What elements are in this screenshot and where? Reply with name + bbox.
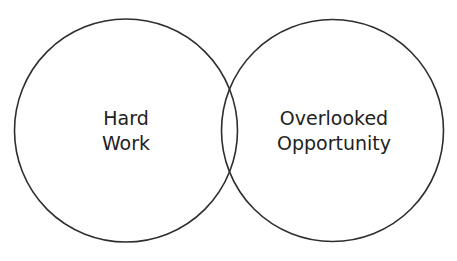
label-overlooked-opportunity-line-2: Opportunity	[264, 131, 404, 156]
label-overlooked-opportunity: Overlooked Opportunity	[264, 106, 404, 156]
label-hard-work: Hard Work	[76, 106, 176, 156]
label-hard-work-line-1: Hard	[76, 106, 176, 131]
label-overlooked-opportunity-line-1: Overlooked	[264, 106, 404, 131]
label-hard-work-line-2: Work	[76, 131, 176, 156]
